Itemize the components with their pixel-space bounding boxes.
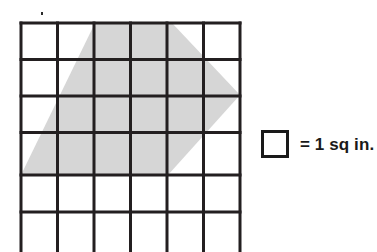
legend: = 1 sq in. (261, 128, 374, 160)
stray-dot (41, 12, 43, 15)
figure-canvas (0, 0, 377, 252)
legend-label: = 1 sq in. (300, 136, 374, 153)
unit-square-swatch-icon (261, 130, 289, 158)
